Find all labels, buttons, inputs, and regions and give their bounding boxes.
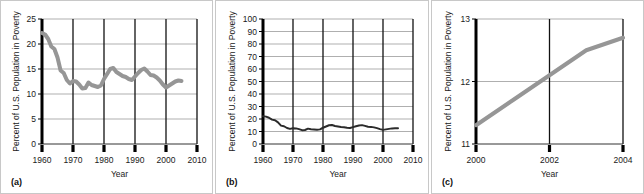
chart-panel-b: 0102030405060708090100196019701980199020…: [215, 0, 429, 194]
x-tick-label: 1980: [314, 155, 333, 165]
y-tick-label: 10: [27, 89, 37, 99]
y-tick-label: 10: [248, 127, 258, 137]
x-tick-label: 1960: [33, 155, 52, 165]
x-tick-label: 2000: [467, 155, 486, 165]
x-tick-label: 2004: [614, 155, 633, 165]
x-tick-label: 2000: [374, 155, 393, 165]
y-tick-label: 25: [27, 14, 37, 24]
x-tick-label: 1980: [95, 155, 114, 165]
y-axis-title: Percent of U.S. Population in Poverty: [11, 11, 21, 152]
chart-plot-c: 111213200020022004YearPercent of U.S. Po…: [432, 1, 644, 194]
x-tick-label: 2010: [404, 155, 423, 165]
y-tick-label: 30: [248, 102, 258, 112]
y-tick-label: 20: [248, 114, 258, 124]
panel-label-b: (b): [226, 177, 238, 187]
y-axis-title: Percent of U.S. Population in Poverty: [227, 11, 237, 152]
x-axis-title: Year: [111, 169, 128, 179]
chart-panel-a: 0510152025196019701980199020002010YearPe…: [0, 0, 213, 194]
x-tick-label: 1970: [284, 155, 303, 165]
y-tick-label: 90: [248, 27, 258, 37]
x-tick-label: 1960: [254, 155, 273, 165]
y-tick-label: 50: [248, 77, 258, 87]
y-tick-label: 70: [248, 52, 258, 62]
y-tick-label: 40: [248, 89, 258, 99]
panel-label-a: (a): [11, 177, 22, 187]
data-line: [263, 116, 398, 130]
y-tick-label: 13: [461, 14, 471, 24]
panel-label-c: (c): [442, 177, 453, 187]
y-axis-title: Percent of U.S. Population in Poverty: [443, 11, 453, 152]
x-tick-label: 2002: [540, 155, 559, 165]
x-axis-title: Year: [329, 169, 346, 179]
y-tick-label: 100: [243, 14, 257, 24]
poverty-rate-figure: 0510152025196019701980199020002010YearPe…: [0, 0, 644, 194]
x-tick-label: 1990: [126, 155, 145, 165]
y-tick-label: 0: [252, 139, 257, 149]
y-tick-label: 11: [461, 139, 470, 149]
x-tick-label: 1970: [64, 155, 83, 165]
x-tick-label: 1990: [344, 155, 363, 165]
y-tick-label: 0: [31, 139, 36, 149]
y-tick-label: 80: [248, 39, 258, 49]
data-line: [42, 33, 182, 89]
y-tick-label: 20: [27, 39, 37, 49]
chart-panel-c: 111213200020022004YearPercent of U.S. Po…: [431, 0, 644, 194]
y-tick-label: 15: [27, 64, 37, 74]
chart-plot-a: 0510152025196019701980199020002010YearPe…: [1, 1, 214, 194]
x-tick-label: 2010: [188, 155, 207, 165]
y-tick-label: 5: [31, 114, 36, 124]
x-tick-label: 2000: [157, 155, 176, 165]
x-axis-title: Year: [541, 169, 558, 179]
y-tick-label: 12: [461, 77, 471, 87]
chart-plot-b: 0102030405060708090100196019701980199020…: [216, 1, 430, 194]
y-tick-label: 60: [248, 64, 258, 74]
